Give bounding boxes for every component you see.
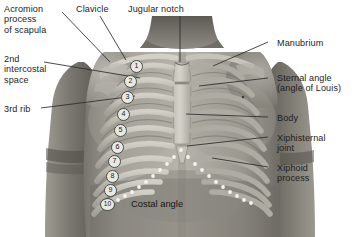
label-costal-angle: Costal angle — [131, 198, 183, 209]
label-manubrium: Manubrium — [277, 38, 323, 48]
rib-number-7: 7 — [108, 155, 121, 168]
label-clavicle: Clavicle — [76, 4, 109, 14]
skin-mark — [242, 96, 245, 99]
label-sternal-angle: Sternal angle (angle of Louis) — [277, 73, 341, 94]
rib-number-2: 2 — [124, 75, 137, 88]
rib-number-9: 9 — [104, 184, 117, 197]
rib-number-8: 8 — [106, 170, 119, 183]
manubrium — [173, 63, 191, 82]
label-2nd-intercostal-space: 2nd intercostal space — [4, 54, 46, 85]
label-body: Body — [277, 113, 298, 123]
label-xiphoid-process: Xiphoid process — [277, 163, 309, 184]
label-acromion-process-of-scapula: Acromion process of scapula — [4, 4, 46, 35]
rib-number-5: 5 — [114, 124, 127, 137]
rib-number-4: 4 — [117, 108, 130, 121]
rib-number-3: 3 — [121, 91, 134, 104]
rib-number-6: 6 — [111, 141, 124, 154]
anatomy-figure: Acromion process of scapula Clavicle Jug… — [0, 0, 364, 237]
label-jugular-notch: Jugular notch — [128, 4, 184, 14]
rib-number-10: 10 — [100, 198, 115, 211]
rib-number-1: 1 — [130, 60, 143, 73]
label-3rd-rib: 3rd rib — [4, 104, 30, 114]
neck — [140, 16, 224, 48]
label-xiphisternal-joint: Xiphisternal joint — [277, 133, 326, 154]
